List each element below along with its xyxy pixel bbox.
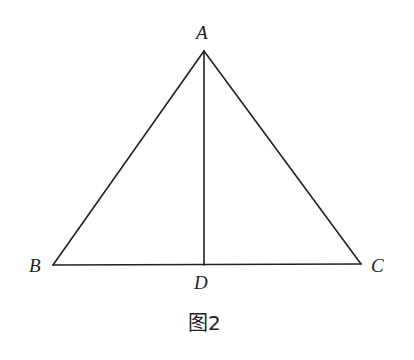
label-d: D — [193, 272, 208, 293]
label-c: C — [371, 255, 384, 276]
triangle-figure: A B C D 图2 — [0, 0, 414, 360]
segment-ac — [204, 51, 361, 264]
figure-caption: 图2 — [188, 311, 221, 335]
segment-ab — [53, 51, 204, 265]
label-a: A — [194, 22, 208, 43]
segment-bc — [53, 264, 361, 265]
label-b: B — [29, 255, 41, 276]
